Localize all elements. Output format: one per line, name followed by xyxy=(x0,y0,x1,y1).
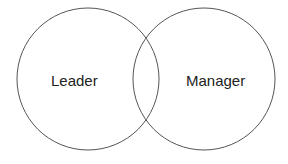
venn-svg: Leader Manager xyxy=(0,0,288,164)
manager-label: Manager xyxy=(186,72,245,89)
venn-diagram: Leader Manager xyxy=(0,0,288,164)
leader-label: Leader xyxy=(51,72,98,89)
